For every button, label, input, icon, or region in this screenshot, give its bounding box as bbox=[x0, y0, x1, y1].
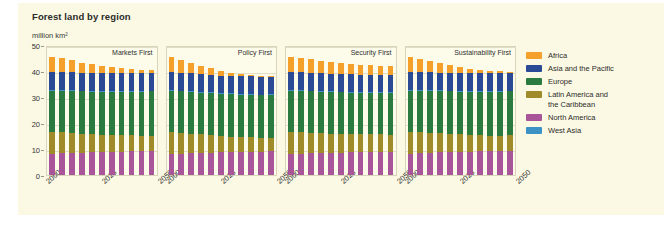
stacked-bar[interactable] bbox=[69, 60, 75, 175]
stacked-bar[interactable] bbox=[437, 63, 443, 175]
stacked-bar[interactable] bbox=[417, 59, 423, 175]
bar-segment bbox=[169, 154, 175, 175]
bar-segment bbox=[328, 134, 334, 153]
stacked-bar[interactable] bbox=[497, 71, 503, 175]
stacked-bar[interactable] bbox=[358, 65, 364, 175]
bar-segment bbox=[308, 153, 314, 175]
bar-segment bbox=[358, 65, 364, 75]
bar-segment bbox=[408, 72, 414, 90]
bar-segment bbox=[507, 151, 513, 175]
panel-title: Security First bbox=[351, 49, 392, 56]
stacked-bar[interactable] bbox=[119, 68, 125, 175]
stacked-bar[interactable] bbox=[149, 70, 155, 175]
bar-segment bbox=[298, 72, 304, 90]
bar-segment bbox=[268, 77, 274, 95]
bar-segment bbox=[109, 73, 115, 91]
stacked-bar[interactable] bbox=[477, 70, 483, 175]
bar-segment bbox=[457, 92, 463, 135]
stacked-bar[interactable] bbox=[318, 61, 324, 175]
bar-segment bbox=[129, 73, 135, 91]
bar-segment bbox=[149, 73, 155, 91]
bar-segment bbox=[178, 91, 184, 133]
stacked-bar[interactable] bbox=[378, 66, 384, 175]
stacked-bar[interactable] bbox=[129, 69, 135, 175]
stacked-bar[interactable] bbox=[487, 71, 493, 175]
bar-segment bbox=[238, 95, 244, 137]
bar-segment bbox=[218, 94, 224, 136]
bar-segment bbox=[119, 152, 125, 175]
y-axis-unit-label: million km² bbox=[32, 31, 68, 40]
bar-segment bbox=[298, 58, 304, 73]
stacked-bar[interactable] bbox=[338, 63, 344, 175]
bar-segment bbox=[198, 74, 204, 92]
bar-segment bbox=[268, 138, 274, 152]
legend-item[interactable]: West Asia bbox=[526, 126, 662, 136]
legend-item[interactable]: Europe bbox=[526, 77, 662, 87]
stacked-bar[interactable] bbox=[268, 76, 274, 175]
stacked-bar[interactable] bbox=[248, 75, 254, 175]
stacked-bar[interactable] bbox=[178, 60, 184, 175]
stacked-bar[interactable] bbox=[218, 71, 224, 175]
bar-segment bbox=[49, 154, 55, 175]
stacked-bar[interactable] bbox=[49, 57, 55, 175]
stacked-bar[interactable] bbox=[507, 72, 513, 175]
bar-segment bbox=[378, 93, 384, 135]
stacked-bar[interactable] bbox=[348, 64, 354, 175]
legend-item[interactable]: Latin America and the Caribbean bbox=[526, 90, 662, 109]
stacked-bar[interactable] bbox=[59, 58, 65, 175]
stacked-bar[interactable] bbox=[258, 76, 264, 175]
stacked-bar[interactable] bbox=[139, 70, 145, 175]
stacked-bar[interactable] bbox=[328, 62, 334, 175]
stacked-bar[interactable] bbox=[298, 58, 304, 175]
bar-segment bbox=[198, 93, 204, 135]
stacked-bar[interactable] bbox=[388, 66, 394, 175]
stacked-bar[interactable] bbox=[238, 74, 244, 175]
stacked-bar[interactable] bbox=[288, 57, 294, 175]
stacked-bar[interactable] bbox=[457, 67, 463, 175]
stacked-bar[interactable] bbox=[467, 69, 473, 175]
bar-segment bbox=[318, 92, 324, 134]
stacked-bar[interactable] bbox=[169, 57, 175, 175]
bar-segment bbox=[328, 62, 334, 74]
bar-segment bbox=[139, 73, 145, 91]
stacked-bar[interactable] bbox=[408, 57, 414, 175]
bar-segment bbox=[198, 134, 204, 152]
bar-segment bbox=[298, 132, 304, 153]
stacked-bar[interactable] bbox=[109, 67, 115, 175]
bar-segment bbox=[228, 94, 234, 136]
legend-item[interactable]: North America bbox=[526, 113, 662, 123]
stacked-bar[interactable] bbox=[198, 66, 204, 175]
x-axis: 2000202520502000202520502000202520502000… bbox=[46, 176, 516, 210]
stacked-bar[interactable] bbox=[79, 63, 85, 175]
bar-segment bbox=[228, 152, 234, 175]
stacked-bar[interactable] bbox=[99, 66, 105, 175]
stacked-bar[interactable] bbox=[308, 59, 314, 175]
stacked-bar[interactable] bbox=[447, 65, 453, 175]
bar-segment bbox=[477, 92, 483, 135]
bar-segment bbox=[129, 92, 135, 136]
y-axis-tick-label: 30 bbox=[32, 94, 40, 103]
stacked-bar[interactable] bbox=[208, 68, 214, 175]
bar-segment bbox=[378, 134, 384, 151]
bar-segment bbox=[79, 153, 85, 175]
bar-segment bbox=[437, 73, 443, 91]
bar-segment bbox=[368, 75, 374, 93]
legend-item[interactable]: Africa bbox=[526, 51, 662, 61]
stacked-bar[interactable] bbox=[188, 63, 194, 175]
legend-item[interactable]: Asia and the Pacific bbox=[526, 64, 662, 74]
bar-segment bbox=[139, 136, 145, 152]
stacked-bar[interactable] bbox=[368, 65, 374, 175]
bar-segment bbox=[149, 91, 155, 135]
y-axis-tick-mark bbox=[41, 72, 44, 73]
bar-segment bbox=[188, 153, 194, 175]
stacked-bar[interactable] bbox=[89, 64, 95, 175]
chart-panel: Policy First bbox=[166, 46, 278, 176]
bar-segment bbox=[69, 153, 75, 175]
stacked-bar[interactable] bbox=[427, 61, 433, 175]
y-axis-tick-mark bbox=[41, 46, 44, 47]
bar-segment bbox=[149, 136, 155, 151]
bar-segment bbox=[99, 135, 105, 152]
bar-segment bbox=[228, 76, 234, 94]
stacked-bar[interactable] bbox=[228, 73, 234, 175]
bar-segment bbox=[348, 134, 354, 152]
